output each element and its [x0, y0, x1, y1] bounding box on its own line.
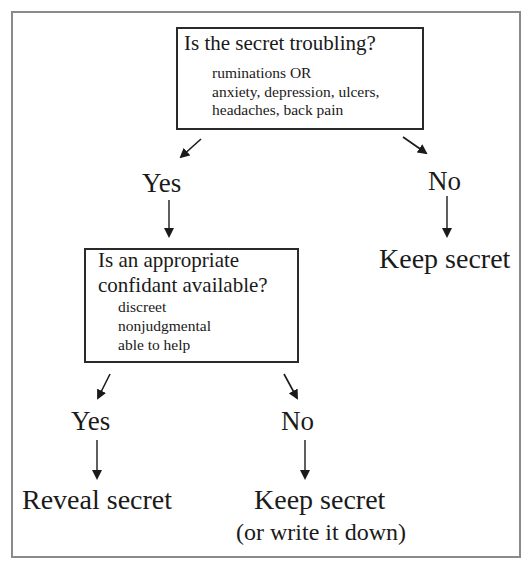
outcome-keep-secret-2: Keep secret — [254, 486, 385, 514]
criterion-able-to-help: able to help — [118, 337, 190, 353]
branch2-yes-label: Yes — [71, 408, 110, 435]
outcome-note-write-it-down: (or write it down) — [236, 520, 406, 544]
criterion-nonjudgmental: nonjudgmental — [118, 318, 211, 334]
question-confidant-title-line2: confidant available? — [98, 275, 268, 296]
branch2-no-label: No — [281, 408, 314, 435]
criterion-discreet: discreet — [118, 299, 166, 315]
criterion-ruminations: ruminations OR — [212, 65, 311, 81]
branch1-no-label: No — [428, 168, 461, 195]
criterion-headaches: headaches, back pain — [212, 102, 343, 118]
outcome-reveal-secret: Reveal secret — [22, 486, 172, 514]
question-troubling-title: Is the secret troubling? — [184, 33, 376, 54]
outcome-keep-secret-1: Keep secret — [379, 245, 510, 273]
criterion-anxiety: anxiety, depression, ulcers, — [212, 84, 379, 100]
branch1-yes-label: Yes — [142, 170, 181, 197]
question-confidant-title-line1: Is an appropriate — [98, 250, 239, 271]
